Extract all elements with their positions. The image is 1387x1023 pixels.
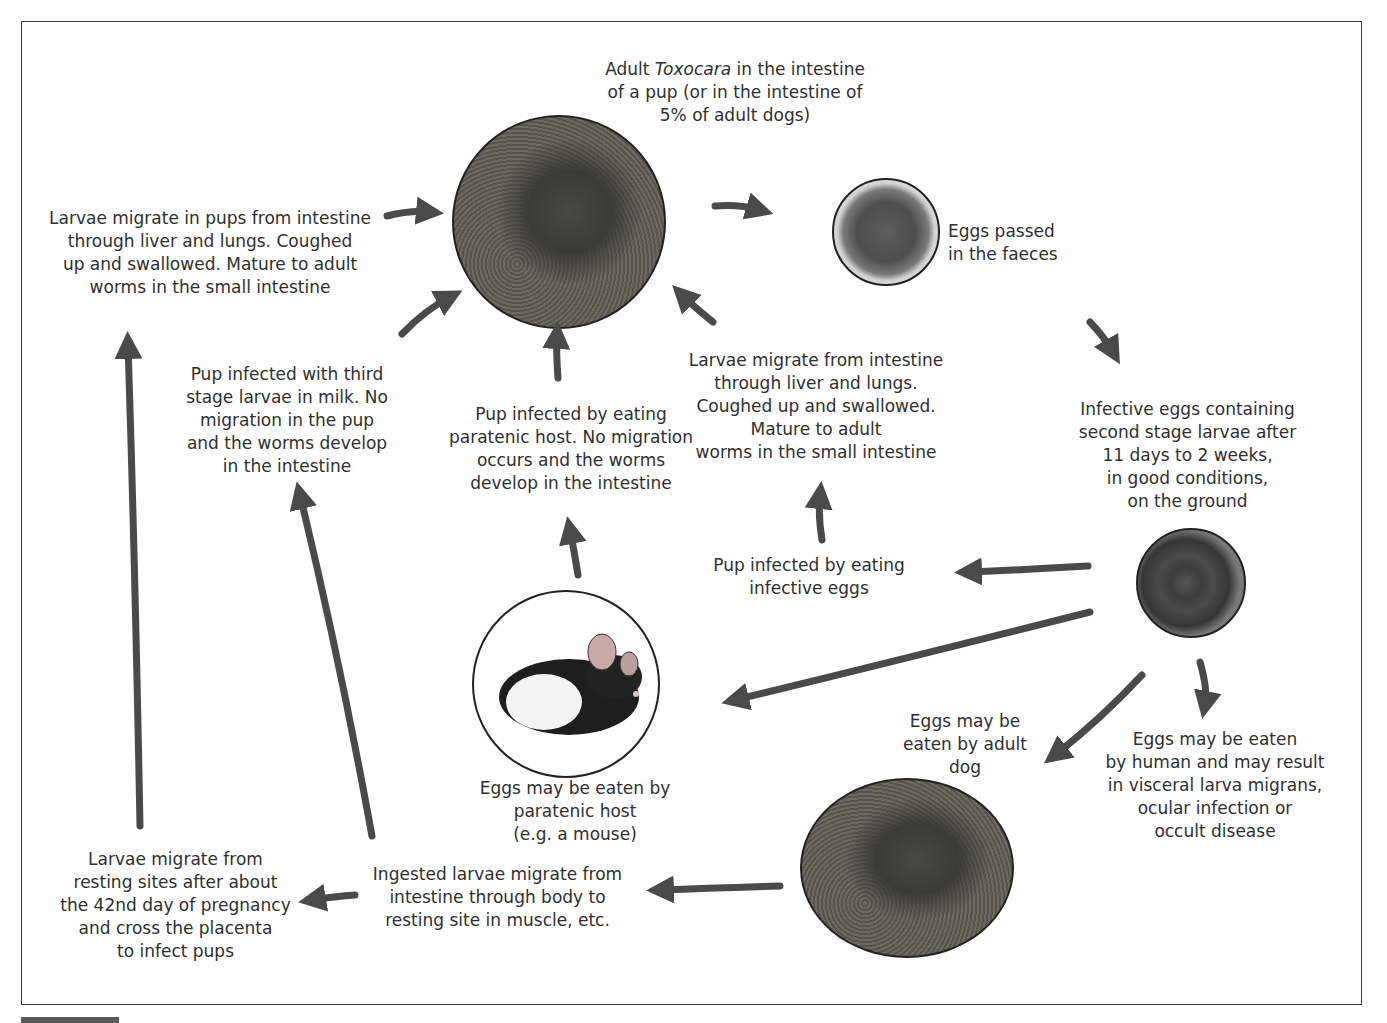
arrow-ingested-to-milk	[300, 495, 372, 836]
arrow-adult-to-eggs	[715, 206, 760, 211]
arrow-mouse-up	[570, 530, 578, 575]
arrow-infective-to-human	[1200, 662, 1206, 705]
arrow-infective-to-pup-eggs	[968, 566, 1088, 572]
cycle-arrows	[0, 0, 1387, 1023]
arrow-eggs-to-infective	[1090, 322, 1113, 352]
arrow-placenta-to-left	[128, 345, 140, 826]
arrow-adult-dog-to-ingested	[660, 886, 780, 890]
arrow-pup-eggs-up	[819, 495, 822, 540]
arrow-paratenic-to-adult	[557, 335, 558, 378]
arrow-ingested-to-placenta	[312, 895, 355, 900]
arrow-milk-to-adult	[402, 297, 450, 334]
arrow-left-to-adult	[387, 212, 430, 217]
arrow-infective-to-adult-dog	[1055, 675, 1142, 755]
arrow-larvae-right-to-adult	[682, 295, 713, 322]
arrow-infective-to-mouse	[735, 612, 1090, 700]
